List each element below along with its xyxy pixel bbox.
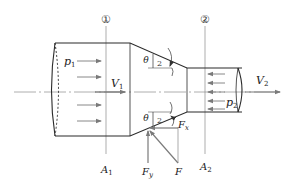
pipe-reducer-diagram: ① ② p1 V1 p2 V2 θ 2 θ 2 Fx Fy F A1 A2 [0,0,289,189]
outlet-pressure-arrows [208,74,225,109]
section-2-marker: ② [200,13,210,26]
theta-bottom: θ [143,113,149,123]
a2-label: A2 [199,161,212,174]
theta-top: θ [143,55,149,65]
v1-label: V1 [111,77,123,91]
a1-label: A1 [100,164,113,177]
p1-label: p1 [64,55,76,69]
v2-label: V2 [256,74,268,88]
fx-label: Fx [177,119,189,132]
fy-label: Fy [141,166,154,179]
force-diagram [148,128,178,163]
p2-label: p2 [226,96,238,110]
f-arrow [150,131,178,163]
half-bottom: 2 [157,116,162,125]
inlet-pressure-arrows [77,61,101,121]
f-label: F [174,166,183,177]
half-top: 2 [157,59,162,68]
section-1-marker: ① [101,13,111,26]
